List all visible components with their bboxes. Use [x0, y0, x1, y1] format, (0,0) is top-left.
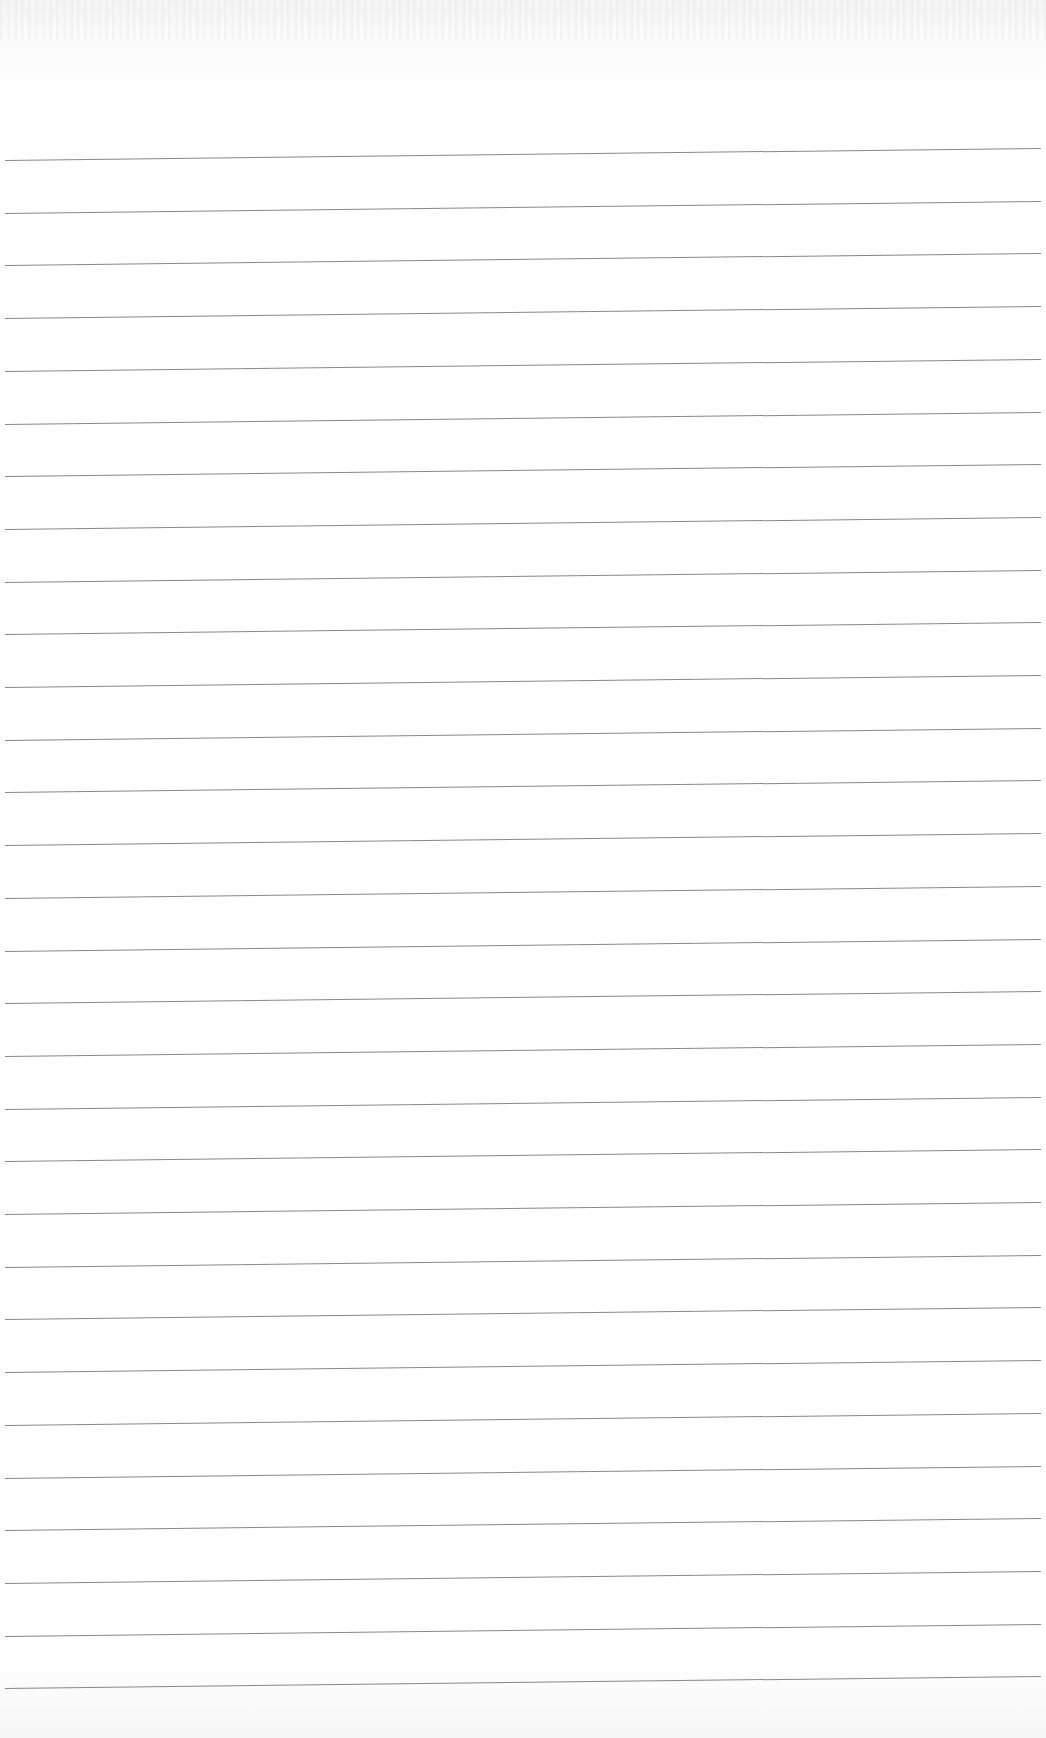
ruled-line [5, 1465, 1041, 1478]
ruled-line [5, 1044, 1041, 1057]
ruled-line [5, 675, 1041, 688]
ruled-line [5, 1413, 1041, 1426]
ruled-lines [0, 0, 1046, 1738]
ruled-line [5, 148, 1041, 161]
ruled-line [5, 1518, 1041, 1531]
ruled-line [5, 306, 1041, 319]
ruled-line [5, 991, 1041, 1004]
ruled-line [5, 1307, 1041, 1320]
ruled-line [5, 253, 1041, 266]
ruled-line [5, 938, 1041, 951]
ruled-line [5, 886, 1041, 899]
ruled-line [5, 1096, 1041, 1109]
ruled-line [5, 201, 1041, 214]
ruled-line [5, 1202, 1041, 1215]
ruled-line [5, 517, 1041, 530]
ruled-line [5, 622, 1041, 635]
ruled-line [5, 359, 1041, 372]
ruled-line [5, 464, 1041, 477]
ruled-line [5, 1623, 1041, 1636]
ruled-line [5, 569, 1041, 582]
ruled-line [5, 780, 1041, 793]
ruled-line [5, 1676, 1041, 1689]
ruled-line [5, 1255, 1041, 1268]
ruled-line [5, 833, 1041, 846]
ruled-line [5, 728, 1041, 741]
ruled-line [5, 411, 1041, 424]
ruled-line [5, 1571, 1041, 1584]
ruled-line [5, 1149, 1041, 1162]
ruled-line [5, 1360, 1041, 1373]
lined-paper-sheet [0, 0, 1046, 1738]
